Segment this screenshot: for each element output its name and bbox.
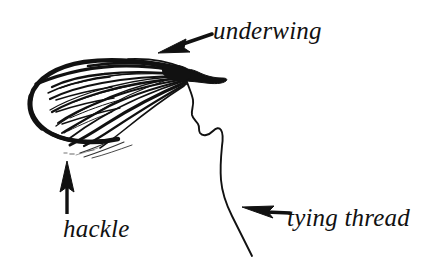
label-underwing: underwing — [213, 18, 322, 43]
label-hackle: hackle — [63, 216, 129, 241]
label-tying-thread: tying thread — [287, 205, 410, 230]
fly-tying-diagram: underwing hackle tying thread — [0, 0, 425, 271]
